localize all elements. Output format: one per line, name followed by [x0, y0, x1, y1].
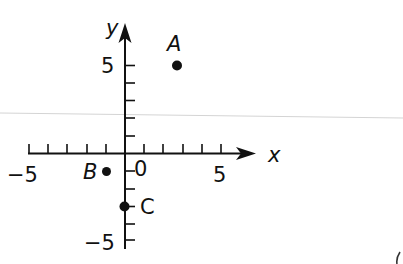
- point-b-dot: [102, 167, 111, 176]
- point-a-dot: [172, 61, 182, 71]
- point-c-label: C: [140, 195, 155, 219]
- point-c-dot: [120, 202, 130, 212]
- y-tick-label-pos5: 5: [101, 54, 114, 78]
- y-axis: [119, 23, 136, 249]
- y-tick-label-neg5: −5: [84, 231, 115, 255]
- coordinate-plane: x y −5 0 5 5 −5 A B C: [0, 0, 403, 264]
- scan-line: [0, 113, 403, 118]
- x-tick-label-pos5: 5: [213, 163, 226, 187]
- x-tick-label-neg5: −5: [7, 163, 38, 187]
- point-a: A: [165, 32, 182, 71]
- point-b: B: [83, 160, 111, 184]
- y-axis-label: y: [105, 16, 119, 40]
- point-b-label: B: [83, 160, 97, 184]
- origin-label: 0: [134, 157, 147, 181]
- point-a-label: A: [165, 32, 181, 56]
- cropped-glyph-fragment: [397, 252, 400, 264]
- x-axis-label: x: [267, 143, 281, 167]
